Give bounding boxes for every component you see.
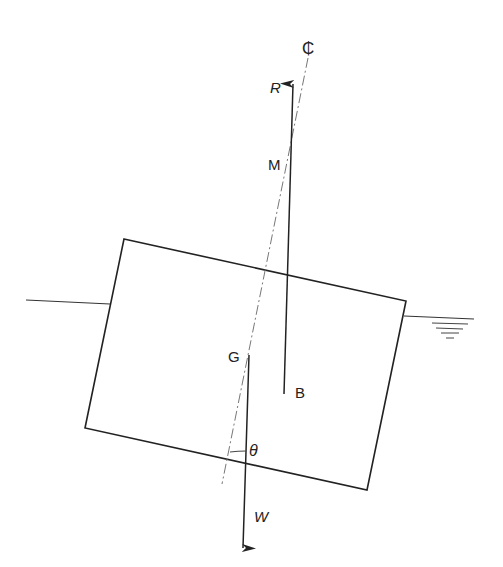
metacentre-label: M — [268, 157, 281, 172]
buoyancy-force-arrow — [284, 84, 293, 394]
weight-label: W — [254, 509, 268, 524]
heel-angle-arc — [230, 451, 246, 452]
diagram-lines — [0, 0, 503, 567]
righting-force-label: R — [270, 80, 281, 95]
heel-angle-label: θ — [249, 443, 258, 459]
centre-of-gravity-label: G — [228, 349, 240, 364]
centerline-label: ₵ — [302, 40, 314, 57]
stability-diagram: ₵ R M G B θ W — [0, 0, 503, 567]
centre-of-buoyancy-label: B — [295, 385, 305, 400]
waterline-right — [404, 316, 474, 319]
waterline-left — [26, 300, 110, 304]
centerline — [222, 58, 308, 484]
water-surface-symbol — [432, 323, 468, 338]
